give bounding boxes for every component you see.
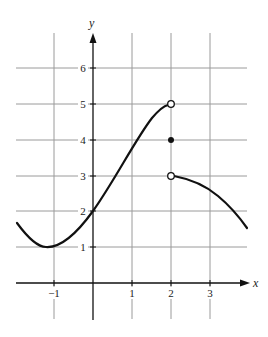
y-axis-label: y: [88, 16, 95, 30]
y-tick-label: 3: [80, 170, 86, 182]
grid: [16, 33, 247, 319]
x-tick-label: 2: [168, 287, 174, 299]
x-tick-label: −1: [48, 287, 60, 299]
y-tick-label: 1: [80, 241, 86, 253]
y-tick-label: 6: [80, 62, 86, 74]
y-tick-label: 5: [80, 98, 86, 110]
x-tick-label: 3: [207, 287, 213, 299]
x-tick-label: 1: [129, 287, 135, 299]
filled-point-2-4: [168, 137, 174, 143]
axes: [16, 40, 243, 320]
y-tick-label: 4: [80, 134, 86, 146]
y-tick-label: 2: [80, 205, 86, 217]
open-point-2-3: [168, 173, 175, 180]
function-graph: x y −1 1 2 3 1 2 3 4 5 6: [0, 0, 268, 337]
x-axis-label: x: [252, 276, 259, 290]
x-axis-arrow-icon: [240, 280, 250, 287]
y-axis-arrow-icon: [90, 33, 97, 43]
open-point-2-5: [168, 101, 175, 108]
